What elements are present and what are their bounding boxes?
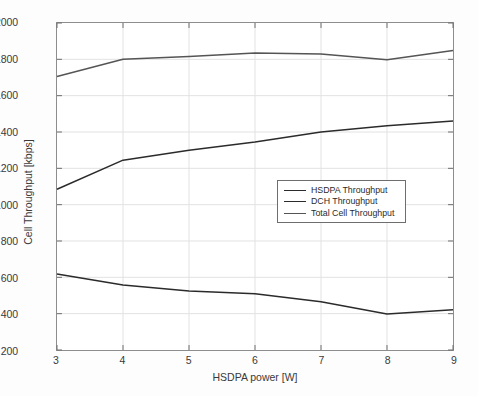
- x-tick-label: 7: [309, 354, 333, 366]
- legend-line-swatch-dch: [284, 201, 306, 202]
- chart-legend: HSDPA Throughput DCH Throughput Total Ce…: [277, 180, 406, 223]
- x-tick-label: 4: [110, 354, 134, 366]
- legend-item: HSDPA Throughput: [281, 185, 401, 196]
- x-tick-label: 9: [442, 354, 466, 366]
- y-tick-label: 2000: [0, 16, 18, 28]
- chart-figure: 200400600800100012001400160018002000 345…: [0, 0, 478, 396]
- legend-label-dch: DCH Throughput: [311, 196, 377, 207]
- legend-label-hsdpa: HSDPA Throughput: [311, 185, 387, 196]
- y-tick-label: 1800: [0, 53, 18, 65]
- x-tick-label: 3: [44, 354, 68, 366]
- y-tick-label: 400: [0, 308, 18, 320]
- x-axis-title: HSDPA power [W]: [56, 371, 454, 383]
- series-line-total-cell-throughput: [57, 51, 453, 77]
- series-line-dch-throughput: [57, 274, 453, 314]
- legend-item: DCH Throughput: [281, 196, 401, 207]
- y-tick-label: 800: [0, 235, 18, 247]
- y-tick-label: 1400: [0, 126, 18, 138]
- x-tick-label: 6: [243, 354, 267, 366]
- legend-label-total: Total Cell Throughput: [311, 208, 394, 219]
- x-tick-label: 5: [177, 354, 201, 366]
- y-tick-label: 1200: [0, 162, 18, 174]
- legend-line-swatch-hsdpa: [284, 190, 306, 191]
- y-tick-label: 200: [0, 345, 18, 357]
- y-tick-label: 600: [0, 272, 18, 284]
- series-line-hsdpa-throughput: [57, 121, 453, 189]
- x-tick-label: 8: [376, 354, 400, 366]
- legend-item: Total Cell Throughput: [281, 208, 401, 219]
- legend-line-swatch-total: [284, 213, 306, 214]
- y-axis-title: Cell Throughput [kbps]: [22, 102, 34, 282]
- y-tick-label: 1000: [0, 199, 18, 211]
- y-tick-label: 1600: [0, 89, 18, 101]
